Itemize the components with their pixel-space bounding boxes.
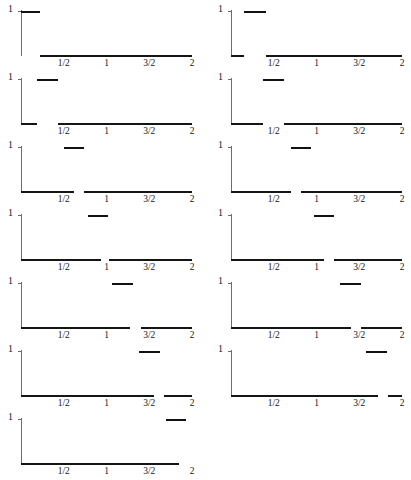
plot-panel: 11/213/22 [212, 204, 411, 266]
bump-segment [366, 351, 387, 353]
bump-segment [291, 147, 312, 149]
x-axis-tick-label: 3/2 [137, 466, 161, 477]
plot-panel: 11/213/22 [2, 408, 202, 470]
x-axis-baseline-segment [109, 259, 192, 261]
plot-panel: 11/213/22 [2, 136, 202, 198]
bump-segment [64, 147, 85, 149]
bump-segment [340, 283, 361, 285]
plot-panel: 11/213/22 [2, 204, 202, 266]
y-axis-tick-label: 1 [8, 412, 13, 422]
y-axis-tick-mark [18, 283, 22, 284]
bump-segment [21, 11, 40, 13]
y-axis-line [21, 214, 22, 260]
y-axis-tick-label: 1 [218, 140, 223, 150]
x-axis-baseline-segment [164, 395, 192, 397]
y-axis-tick-mark [228, 11, 232, 12]
x-axis-baseline-segment [231, 191, 291, 193]
x-axis-baseline-segment [301, 191, 402, 193]
y-axis-tick-label: 1 [8, 4, 13, 14]
x-axis-baseline-segment [284, 123, 402, 125]
y-axis-line [231, 214, 232, 260]
x-axis-baseline-segment [231, 395, 378, 397]
y-axis-tick-label: 1 [218, 72, 223, 82]
y-axis-tick-label: 1 [218, 208, 223, 218]
x-axis-baseline-segment [361, 327, 402, 329]
y-axis-tick-mark [18, 215, 22, 216]
x-axis-baseline-segment [231, 259, 324, 261]
y-axis-tick-mark [18, 351, 22, 352]
y-axis-tick-label: 1 [8, 208, 13, 218]
x-axis-tick-label: 2 [180, 466, 204, 477]
y-axis-line [21, 146, 22, 192]
y-axis-tick-label: 1 [218, 276, 223, 286]
plot-panel: 11/213/22 [212, 136, 411, 198]
y-axis-tick-mark [228, 147, 232, 148]
x-axis-baseline-segment [40, 55, 192, 57]
y-axis-tick-label: 1 [8, 72, 13, 82]
plot-panel: 11/213/22 [212, 0, 411, 62]
x-axis-baseline-segment [231, 55, 244, 57]
y-axis-tick-label: 1 [8, 344, 13, 354]
bump-segment [37, 79, 58, 81]
x-axis-baseline-segment [21, 463, 179, 465]
x-axis-baseline-segment [141, 327, 192, 329]
x-axis-baseline-segment [388, 395, 402, 397]
x-axis-baseline-segment [334, 259, 402, 261]
x-axis-tick-label: 1/2 [52, 466, 76, 477]
x-axis-tick-label: 1/2 [262, 398, 286, 409]
bump-segment [244, 11, 266, 13]
y-axis-tick-mark [228, 351, 232, 352]
y-axis-line [21, 78, 22, 124]
figure-panel-grid: 11/213/2211/213/2211/213/2211/213/2211/2… [0, 0, 411, 480]
plot-panel: 11/213/22 [2, 0, 202, 62]
y-axis-tick-mark [18, 147, 22, 148]
plot-panel: 11/213/22 [212, 272, 411, 334]
y-axis-tick-label: 1 [218, 4, 223, 14]
x-axis-baseline-segment [231, 123, 263, 125]
x-axis-baseline-segment [231, 327, 351, 329]
x-axis-baseline-segment [21, 327, 130, 329]
x-axis-tick-label: 1 [305, 398, 329, 409]
y-axis-tick-label: 1 [218, 344, 223, 354]
bump-segment [139, 351, 160, 353]
y-axis-tick-label: 1 [8, 140, 13, 150]
plot-panel: 11/213/22 [2, 272, 202, 334]
plot-panel: 11/213/22 [2, 68, 202, 130]
bump-segment [166, 419, 186, 421]
y-axis-tick-mark [228, 283, 232, 284]
x-axis-baseline-segment [21, 395, 154, 397]
x-axis-baseline-segment [21, 123, 37, 125]
y-axis-tick-mark [18, 79, 22, 80]
x-axis-baseline-segment [266, 55, 402, 57]
bump-segment [112, 283, 133, 285]
plot-panel: 11/213/22 [2, 340, 202, 402]
y-axis-line [21, 350, 22, 396]
y-axis-line [231, 282, 232, 328]
y-axis-line [21, 418, 22, 464]
x-axis-tick-label: 3/2 [347, 398, 371, 409]
y-axis-tick-mark [228, 215, 232, 216]
x-axis-baseline-segment [58, 123, 192, 125]
bump-segment [314, 215, 335, 217]
y-axis-line [21, 282, 22, 328]
x-axis-baseline-segment [21, 191, 74, 193]
x-axis-baseline-segment [84, 191, 192, 193]
plot-panel: 11/213/22 [212, 340, 411, 402]
plot-panel: 11/213/22 [212, 68, 411, 130]
y-axis-line [231, 350, 232, 396]
bump-segment [263, 79, 284, 81]
x-axis-tick-label: 1 [95, 466, 119, 477]
y-axis-line [231, 10, 232, 56]
y-axis-tick-mark [228, 79, 232, 80]
x-axis-tick-label: 2 [390, 398, 411, 409]
y-axis-line [231, 78, 232, 124]
y-axis-line [231, 146, 232, 192]
bump-segment [88, 215, 109, 217]
y-axis-line [21, 10, 22, 56]
y-axis-tick-mark [18, 419, 22, 420]
y-axis-tick-label: 1 [8, 276, 13, 286]
x-axis-baseline-segment [21, 259, 101, 261]
